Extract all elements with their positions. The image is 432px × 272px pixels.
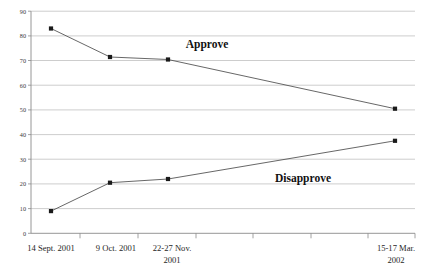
ytick-label-20: 20 <box>20 180 26 187</box>
y-axis-labels: 90 80 70 60 50 40 30 20 10 0 <box>20 8 26 237</box>
xtick-label-3-line2: 2001 <box>163 255 180 265</box>
ytick-label-30: 30 <box>20 156 26 163</box>
disapprove-point-3 <box>166 177 170 181</box>
ytick-label-10: 10 <box>20 205 26 212</box>
xtick-label-2-line1: 9 Oct. 2001 <box>96 243 136 253</box>
line-chart-figure: 90 80 70 60 50 40 30 20 10 0 <box>0 0 432 272</box>
approve-point-1 <box>49 26 53 30</box>
xtick-label-4-line2: 2002 <box>387 255 404 265</box>
x-axis-labels: 14 Sept. 2001 9 Oct. 2001 22-27 Nov. 200… <box>27 243 415 265</box>
plot-area: 90 80 70 60 50 40 30 20 10 0 <box>0 0 432 272</box>
x-tickmarks <box>80 233 415 238</box>
disapprove-point-2 <box>108 181 112 185</box>
disapprove-markers <box>49 139 397 214</box>
xtick-label-3-line1: 22-27 Nov. <box>153 243 192 253</box>
xtick-label-4-line1: 15-17 Mar. <box>377 243 415 253</box>
approve-annotation-label: Approve <box>186 38 229 51</box>
disapprove-series-line <box>51 141 395 211</box>
ytick-label-0: 0 <box>23 230 26 237</box>
ytick-label-90: 90 <box>20 8 26 15</box>
approve-point-2 <box>108 55 112 59</box>
ytick-label-50: 50 <box>20 106 26 113</box>
disapprove-point-1 <box>49 209 53 213</box>
disapprove-point-4 <box>393 139 397 143</box>
ytick-label-40: 40 <box>20 131 26 138</box>
disapprove-annotation-label: Disapprove <box>275 172 331 185</box>
approve-point-3 <box>166 57 170 61</box>
xtick-label-1-line1: 14 Sept. 2001 <box>27 243 75 253</box>
ytick-label-70: 70 <box>20 57 26 64</box>
approve-point-4 <box>393 107 397 111</box>
ytick-label-80: 80 <box>20 32 26 39</box>
ytick-label-60: 60 <box>20 82 26 89</box>
